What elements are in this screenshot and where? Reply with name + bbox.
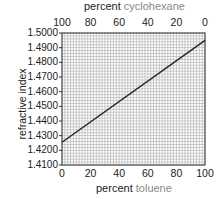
plot-area [0,0,222,199]
